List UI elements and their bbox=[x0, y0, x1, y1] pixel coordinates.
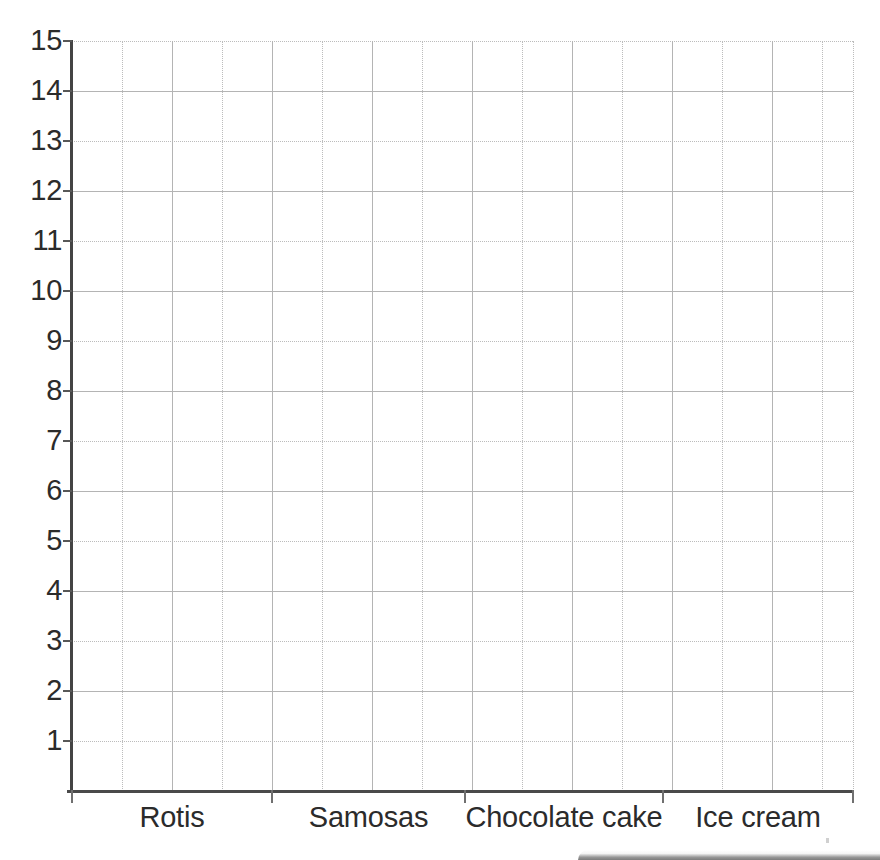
y-axis-tick bbox=[63, 340, 72, 342]
y-axis-tick-label: 4 bbox=[46, 575, 62, 605]
y-axis-tick-label: 10 bbox=[30, 275, 62, 305]
y-axis-tick-label: 6 bbox=[46, 475, 62, 505]
y-axis-line bbox=[70, 40, 73, 793]
y-axis-tick bbox=[63, 190, 72, 192]
y-axis-tick bbox=[63, 540, 72, 542]
blank-bar-chart-grid: 151413121110987654321 RotisSamosasChocol… bbox=[0, 0, 880, 860]
gridline-vertical bbox=[472, 41, 473, 791]
y-axis-tick-label: 11 bbox=[32, 225, 62, 255]
gridline-horizontal bbox=[72, 41, 853, 42]
gridline-horizontal bbox=[72, 141, 853, 142]
gridline-horizontal bbox=[72, 91, 853, 92]
gridline-horizontal bbox=[72, 191, 853, 192]
y-axis-tick-label: 13 bbox=[30, 125, 62, 155]
y-axis-tick bbox=[63, 590, 72, 592]
y-axis-tick bbox=[63, 690, 72, 692]
x-axis-category-label: Samosas bbox=[272, 798, 465, 836]
gridline-vertical bbox=[622, 41, 623, 791]
gridline-vertical bbox=[672, 41, 673, 791]
gridline-horizontal bbox=[72, 591, 853, 592]
y-axis-tick bbox=[63, 740, 72, 742]
y-axis-tick bbox=[63, 490, 72, 492]
y-axis-tick-label: 5 bbox=[46, 525, 62, 555]
gridline-horizontal bbox=[72, 641, 853, 642]
gridline-horizontal bbox=[72, 491, 853, 492]
y-axis-tick-label: 9 bbox=[46, 325, 62, 355]
y-axis-tick bbox=[63, 640, 72, 642]
gridline-horizontal bbox=[72, 391, 853, 392]
gridline-horizontal bbox=[72, 691, 853, 692]
gridline-vertical bbox=[372, 41, 373, 791]
x-axis-category-label: Chocolate cake bbox=[465, 798, 663, 836]
y-axis-tick bbox=[63, 440, 72, 442]
x-axis-category-label: Rotis bbox=[72, 798, 272, 836]
gridline-horizontal bbox=[72, 341, 853, 342]
y-axis-tick-label: 7 bbox=[46, 425, 62, 455]
gridline-vertical bbox=[853, 41, 854, 791]
y-axis-tick bbox=[63, 290, 72, 292]
gridline-vertical bbox=[772, 41, 773, 791]
y-axis-tick-label: 14 bbox=[30, 75, 62, 105]
gridline-horizontal bbox=[72, 541, 853, 542]
y-axis-tick bbox=[63, 140, 72, 142]
plot-area bbox=[72, 41, 853, 791]
y-axis-tick bbox=[63, 240, 72, 242]
gridline-vertical bbox=[722, 41, 723, 791]
gridline-vertical bbox=[122, 41, 123, 791]
y-axis-tick-label: 8 bbox=[46, 375, 62, 405]
gridline-vertical bbox=[422, 41, 423, 791]
gridline-vertical bbox=[172, 41, 173, 791]
gridline-horizontal bbox=[72, 741, 853, 742]
y-axis-tick-label: 3 bbox=[46, 625, 62, 655]
y-axis-tick-label: 12 bbox=[30, 175, 62, 205]
gridline-vertical bbox=[572, 41, 573, 791]
y-axis-tick bbox=[63, 90, 72, 92]
y-axis-tick-label: 15 bbox=[30, 25, 62, 55]
y-axis-tick-label: 2 bbox=[46, 675, 62, 705]
gridline-vertical bbox=[322, 41, 323, 791]
gridline-vertical bbox=[822, 41, 823, 791]
gridline-vertical bbox=[222, 41, 223, 791]
y-axis-tick bbox=[63, 40, 72, 42]
gridline-vertical bbox=[522, 41, 523, 791]
gridline-horizontal bbox=[72, 291, 853, 292]
x-axis-category-label: Ice cream bbox=[663, 798, 853, 836]
x-axis-line bbox=[67, 790, 854, 793]
gridline-horizontal bbox=[72, 441, 853, 442]
y-axis-tick-label: 1 bbox=[46, 725, 62, 755]
gridline-vertical bbox=[272, 41, 273, 791]
scan-speck-artifact bbox=[826, 838, 829, 843]
y-axis-tick bbox=[63, 390, 72, 392]
page-edge-shadow-artifact bbox=[578, 850, 880, 860]
gridline-horizontal bbox=[72, 241, 853, 242]
